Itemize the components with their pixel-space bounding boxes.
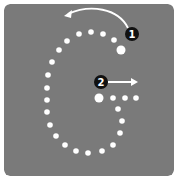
badge-number: 2 <box>98 77 105 88</box>
trace-dot <box>88 29 94 35</box>
trace-dot <box>115 106 121 112</box>
trace-dot <box>110 95 116 101</box>
trace-dot <box>45 72 51 78</box>
trace-dot <box>117 130 123 136</box>
trace-dot <box>53 133 59 139</box>
trace-dot <box>122 95 128 101</box>
trace-dot <box>85 150 91 156</box>
letter-g-tracing-panel: 12 <box>4 4 174 176</box>
start-dot-stroke-1 <box>117 46 126 55</box>
trace-dot <box>100 31 106 37</box>
trace-dot <box>56 47 62 53</box>
trace-dot <box>99 148 105 154</box>
trace-dot <box>47 122 53 128</box>
trace-dot <box>44 85 50 91</box>
trace-dot <box>62 142 68 148</box>
step-badge-2: 2 <box>94 75 108 89</box>
trace-dot <box>49 59 55 65</box>
trace-dot <box>64 38 70 44</box>
trace-dot <box>111 37 117 43</box>
trace-dot <box>76 31 82 37</box>
trace-dot <box>119 118 125 124</box>
panel-background <box>4 4 174 176</box>
trace-dot <box>44 97 50 103</box>
badge-number: 1 <box>129 29 136 40</box>
trace-dot <box>73 148 79 154</box>
trace-dot <box>110 142 116 148</box>
step-badge-1: 1 <box>125 27 139 41</box>
trace-dot <box>44 109 50 115</box>
start-dot-stroke-2 <box>95 94 104 103</box>
trace-dot <box>133 95 139 101</box>
tracing-diagram: 12 <box>4 4 174 176</box>
